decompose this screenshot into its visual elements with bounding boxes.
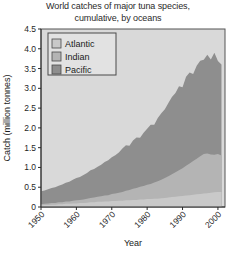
x-tick-label: 1990: [167, 209, 188, 230]
legend-label-pacific: Pacific: [65, 65, 92, 75]
y-tick-label: 2.5: [24, 103, 36, 113]
y-tick-label: 4.5: [24, 24, 36, 34]
x-tick-label: 1970: [97, 209, 118, 230]
x-tick-label: 1960: [61, 209, 82, 230]
y-tick-label: 1.5: [24, 143, 36, 153]
x-tick-label: 1980: [132, 209, 153, 230]
legend-label-indian: Indian: [65, 52, 90, 62]
y-tick-label: 0.5: [24, 182, 36, 192]
y-axis-tick-labels: 00.51.01.52.02.53.03.54.04.5: [24, 24, 36, 212]
chart-svg: 00.51.01.52.02.53.03.54.04.5 19501960197…: [0, 0, 236, 256]
chart-legend: AtlanticIndianPacific: [48, 33, 116, 75]
chart-container: World catches of major tuna species, cum…: [0, 0, 236, 256]
x-axis-title: Year: [124, 238, 142, 248]
y-tick-label: 2.0: [24, 123, 36, 133]
x-axis-tick-labels: 195019601970198019902000: [26, 209, 224, 230]
x-tick-label: 1950: [26, 209, 47, 230]
legend-swatch-atlantic: [52, 39, 61, 48]
y-tick-label: 3.5: [24, 64, 36, 74]
y-tick-label: 0: [31, 202, 36, 212]
legend-swatch-indian: [52, 52, 61, 61]
legend-label-atlantic: Atlantic: [65, 39, 95, 49]
y-tick-label: 4.0: [24, 44, 36, 54]
legend-swatch-pacific: [52, 65, 61, 74]
y-tick-label: 3.0: [24, 83, 36, 93]
y-axis-title: Catch (million tonnes): [2, 74, 12, 161]
y-tick-label: 1.0: [24, 162, 36, 172]
x-tick-label: 2000: [203, 209, 224, 230]
